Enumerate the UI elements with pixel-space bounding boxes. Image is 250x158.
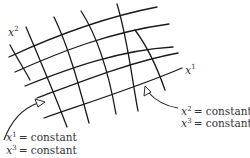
x1-line-5 [44, 68, 182, 118]
right-annotation-pointer [144, 86, 178, 108]
x2-line-4 [117, 4, 138, 111]
x2-line-1 [26, 27, 67, 127]
left-annotation: x1= constant x3= constant [6, 131, 77, 157]
svg-text:x3= constant: x3= constant [181, 117, 250, 130]
x1-axis-label: x1 [185, 63, 196, 77]
x1-coordinate-lines [9, 7, 182, 118]
svg-text:x1= constant: x1= constant [6, 131, 77, 144]
x2-line-0 [10, 45, 30, 80]
curvilinear-grid-diagram: x2 x1 x1= constant x3= constant x2= cons… [0, 0, 250, 158]
arrowhead-icon [35, 99, 45, 107]
right-annotation: x2= constant x3= constant [181, 105, 250, 130]
x2-coordinate-lines [10, 4, 165, 127]
x2-axis-label: x2 [8, 25, 19, 39]
svg-text:x3= constant: x3= constant [6, 144, 77, 157]
